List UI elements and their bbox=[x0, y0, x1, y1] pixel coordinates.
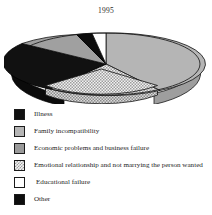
legend-swatch-emotional-relationship bbox=[14, 160, 25, 171]
legend-item-emotional-relationship: Emotional relationship and not marrying … bbox=[14, 157, 210, 173]
legend-label-economic-problems: Economic problems and business failure bbox=[34, 144, 149, 153]
pie-top-faces bbox=[4, 22, 208, 104]
pie-chart-figure: 1995 bbox=[0, 0, 212, 215]
legend-label-emotional-relationship: Emotional relationship and not marrying … bbox=[34, 161, 203, 170]
legend-label-other: Other bbox=[34, 195, 50, 204]
legend-item-economic-problems: Economic problems and business failure bbox=[14, 140, 210, 156]
legend-item-family-incompatibility: Family incompatibility bbox=[14, 123, 210, 139]
chart-title: 1995 bbox=[0, 6, 212, 15]
legend-label-educational-failure: Educational failure bbox=[34, 178, 90, 187]
pie-chart-graphic bbox=[4, 22, 208, 104]
legend-item-other: Other bbox=[14, 191, 210, 207]
legend-swatch-educational-failure bbox=[14, 177, 25, 188]
legend-label-illness: Illness bbox=[34, 110, 53, 119]
legend-swatch-other bbox=[14, 194, 25, 205]
legend-swatch-economic-problems bbox=[14, 143, 25, 154]
legend-item-educational-failure: Educational failure bbox=[14, 174, 210, 190]
chart-legend: Illness Family incompatibility Economic … bbox=[14, 106, 210, 208]
legend-swatch-family-incompatibility bbox=[14, 126, 25, 137]
legend-label-family-incompatibility: Family incompatibility bbox=[34, 127, 99, 136]
legend-item-illness: Illness bbox=[14, 106, 210, 122]
legend-swatch-illness bbox=[14, 109, 25, 120]
